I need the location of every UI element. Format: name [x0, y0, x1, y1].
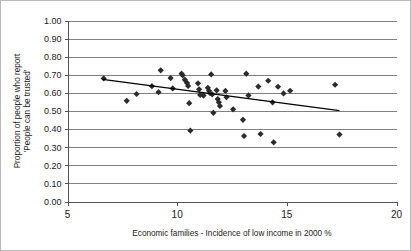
gridlines [68, 22, 397, 203]
data-point-marker [255, 83, 261, 89]
y-tick-label: 0.00 [44, 197, 62, 207]
axes [65, 21, 398, 206]
y-tick-label: 0.60 [44, 88, 62, 98]
data-point-marker [208, 71, 214, 77]
y-tick-label: 0.50 [44, 106, 62, 116]
data-point-marker [214, 87, 220, 93]
chart-container: 0.000.100.200.300.400.500.600.700.800.90… [0, 0, 411, 251]
data-point-marker [210, 110, 216, 116]
data-point-marker [101, 75, 107, 81]
data-point-marker [332, 82, 338, 88]
y-axis-title-line-2: 'People can be trusted' [23, 69, 32, 152]
y-tick-label: 1.00 [44, 16, 62, 26]
data-point-marker [287, 88, 293, 94]
y-tick-label: 0.40 [44, 124, 62, 134]
data-point-marker [155, 89, 161, 95]
data-point-marker [271, 139, 277, 145]
data-point-marker [124, 98, 130, 104]
scatter-plot: 0.000.100.200.300.400.500.600.700.800.90… [1, 1, 411, 251]
data-point-marker [133, 91, 139, 97]
x-tick-label: 10 [172, 209, 184, 220]
y-tick-label: 0.30 [44, 143, 62, 153]
data-point-marker [186, 100, 192, 106]
y-tick-labels: 0.000.100.200.300.400.500.600.700.800.90… [44, 16, 62, 207]
data-point-marker [280, 90, 286, 96]
y-axis-title: Proportion of people who report'People c… [13, 53, 32, 168]
x-tick-label: 20 [391, 209, 403, 220]
y-tick-label: 0.20 [44, 161, 62, 171]
y-axis-title-line-1: Proportion of people who report [13, 53, 22, 168]
data-point-marker [336, 131, 342, 137]
y-tick-label: 0.90 [44, 34, 62, 44]
y-tick-label: 0.10 [44, 179, 62, 189]
x-axis-title: Economic families - Incidence of low inc… [132, 229, 331, 238]
x-axis-title-text: Economic families - Incidence of low inc… [132, 229, 331, 238]
data-point-marker [257, 131, 263, 137]
x-tick-label: 5 [65, 209, 71, 220]
data-point-marker [275, 84, 281, 90]
data-point-marker [240, 117, 246, 123]
x-tick-labels: 5101520 [65, 209, 403, 220]
data-point-marker [241, 133, 247, 139]
data-point-marker [195, 80, 201, 86]
y-tick-label: 0.70 [44, 70, 62, 80]
x-tick-label: 15 [281, 209, 293, 220]
data-point-marker [187, 127, 193, 133]
y-tick-label: 0.80 [44, 52, 62, 62]
data-point-marker [265, 78, 271, 84]
data-point-marker [158, 67, 164, 73]
